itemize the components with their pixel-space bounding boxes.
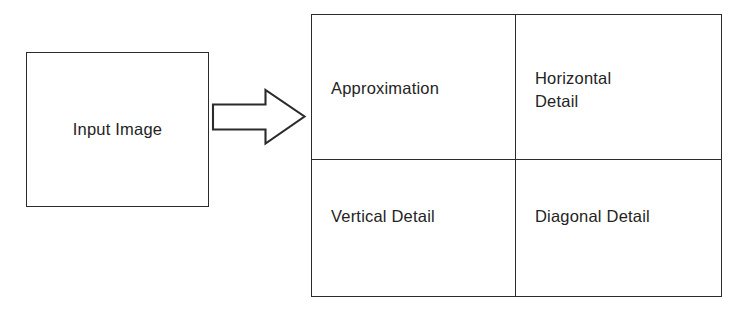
input-image-label: Input Image (73, 120, 162, 139)
subband-cell-vertical-detail: Vertical Detail (312, 160, 516, 296)
subband-label-approximation: Approximation (331, 77, 439, 100)
subband-label-horizontal-detail: Horizontal Detail (535, 67, 611, 114)
subband-grid: Approximation Horizontal Detail Vertical… (311, 14, 722, 297)
wavelet-decomposition-diagram: Input Image Approximation Horizontal Det… (0, 0, 746, 318)
input-image-box: Input Image (26, 52, 209, 207)
subband-cell-horizontal-detail: Horizontal Detail (516, 15, 721, 160)
right-block-arrow-icon (210, 86, 308, 148)
subband-label-vertical-detail: Vertical Detail (331, 205, 435, 228)
subband-cell-approximation: Approximation (312, 15, 516, 160)
subband-cell-diagonal-detail: Diagonal Detail (516, 160, 721, 296)
subband-label-diagonal-detail: Diagonal Detail (535, 205, 650, 228)
